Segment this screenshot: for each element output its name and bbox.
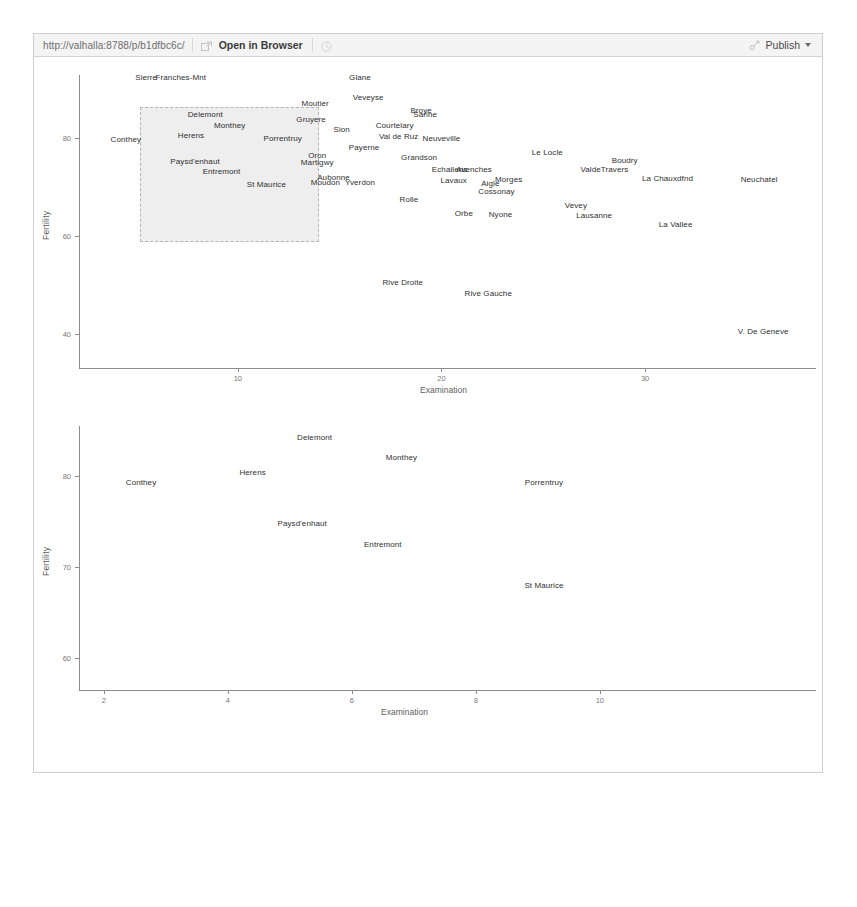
point-label: Lausanne [576,211,612,220]
x-axis-tick [600,690,601,694]
x-axis-tick-label: 8 [474,696,478,705]
point-label: Monthey [214,121,245,130]
point-label: Payerne [349,142,380,151]
point-label: Neuchatel [741,174,778,183]
toolbar-divider-2 [312,38,313,52]
y-axis-title: Fertility [41,210,51,239]
point-label: ValdeTravers [580,164,628,173]
popout-icon[interactable] [200,39,213,52]
x-axis-tick-label: 10 [234,374,242,383]
point-label: Franches-Mnt [156,73,207,82]
x-axis-tick-label: 20 [437,374,445,383]
screenshot-root: http://valhalla:8788/p/b1dfbc6c/ Open in… [0,0,857,907]
point-label: Paysd'enhaut [277,519,326,528]
point-label: Lavaux [440,175,466,184]
open-in-browser-button[interactable]: Open in Browser [219,39,303,51]
y-axis-tick [75,334,79,335]
y-axis-tick [75,236,79,237]
point-label: Gruyere [296,114,326,123]
point-label: Herens [178,130,204,139]
point-label: Delemont [188,110,223,119]
y-axis-tick [75,476,79,477]
toolbar-divider-1 [192,38,193,52]
point-label: Conthey [126,477,157,486]
point-label: Monthey [386,452,417,461]
y-axis-title: Fertility [41,547,51,576]
point-label: La Chauxdfnd [642,173,693,182]
publish-label: Publish [766,39,800,51]
publish-icon [748,39,761,52]
chart-fertility-vs-examination-full[interactable]: 806040102030FertilityExaminationSierreFr… [34,57,822,402]
y-axis-line [79,426,80,690]
y-axis-tick-label: 80 [53,134,71,143]
y-axis-line [79,75,80,368]
viewer-toolbar: http://valhalla:8788/p/b1dfbc6c/ Open in… [34,34,822,57]
x-axis-title: Examination [420,385,467,395]
point-label: V. De Geneve [738,326,789,335]
point-label: Porrentruy [525,477,563,486]
point-label: Vevey [565,201,587,210]
point-label: Val de Ruz [379,131,419,140]
point-label: St Maurice [247,180,286,189]
x-axis-title: Examination [381,707,428,717]
y-axis-tick-label: 40 [53,329,71,338]
point-label: Moutier [302,99,329,108]
y-axis-tick-label: 80 [53,472,71,481]
point-label: Rolle [400,194,419,203]
chevron-down-icon[interactable] [805,43,811,47]
point-label: Veveyse [353,92,384,101]
point-label: Grandson [401,152,437,161]
y-axis-tick [75,138,79,139]
point-label: Yverdon [345,177,375,186]
point-label: Sarine [413,109,437,118]
x-axis-line [79,368,816,369]
point-label: Paysd'enhaut [170,157,219,166]
point-label: Sierre [135,73,157,82]
x-axis-tick [476,690,477,694]
point-label: Avenches [456,164,492,173]
x-axis-tick [238,368,239,372]
point-label: Conthey [111,135,142,144]
point-label: Rive Droite [382,278,423,287]
broom-clear-icon[interactable] [320,39,333,52]
x-axis-tick [645,368,646,372]
x-axis-line [79,690,816,691]
chart-fertility-vs-examination-zoom[interactable]: 807060246810FertilityExaminationDelemont… [34,412,822,732]
publish-button[interactable]: Publish [748,39,822,52]
y-axis-tick [75,567,79,568]
y-axis-tick [75,658,79,659]
point-label: St Maurice [524,581,563,590]
viewer-url-label: http://valhalla:8788/p/b1dfbc6c/ [34,40,185,51]
point-label: Entremont [203,166,241,175]
y-axis-tick-label: 60 [53,232,71,241]
x-axis-tick-label: 6 [350,696,354,705]
plot-surface: 806040102030FertilityExaminationSierreFr… [34,57,822,772]
x-axis-tick [352,690,353,694]
x-axis-tick [104,690,105,694]
x-axis-tick-label: 2 [102,696,106,705]
point-label: Porrentruy [263,133,301,142]
y-axis-tick-label: 60 [53,654,71,663]
point-label: Delemont [297,432,332,441]
y-axis-tick-label: 70 [53,563,71,572]
point-label: Neuveville [423,133,461,142]
point-label: Nyone [489,210,513,219]
point-label: Sion [333,124,349,133]
point-label: Moudon [311,177,341,186]
point-label: Entremont [364,540,402,549]
x-axis-tick [441,368,442,372]
viewer-window: http://valhalla:8788/p/b1dfbc6c/ Open in… [33,33,823,773]
x-axis-tick-label: 10 [596,696,604,705]
point-label: Courtelary [376,121,414,130]
x-axis-tick-label: 4 [226,696,230,705]
open-in-browser-label: Open in Browser [219,39,303,51]
point-label: Martigwy [301,157,334,166]
point-label: Cossonay [478,187,514,196]
point-label: Rive Gauche [465,289,512,298]
x-axis-tick-label: 30 [641,374,649,383]
point-label: Orbe [455,208,473,217]
x-axis-tick [228,690,229,694]
point-label: Glane [349,73,371,82]
point-label: La Vallee [659,219,693,228]
point-label: Le Locle [532,147,563,156]
